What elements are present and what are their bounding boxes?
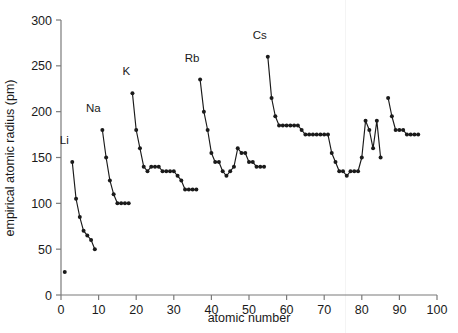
data-point (394, 128, 398, 132)
data-point (93, 247, 97, 251)
data-point (337, 169, 341, 173)
data-point (356, 169, 360, 173)
data-point (371, 146, 375, 150)
data-point (326, 133, 330, 137)
data-point (70, 160, 74, 164)
x-tick-label: 70 (317, 303, 331, 317)
data-point (292, 123, 296, 127)
data-point (100, 128, 104, 132)
atomic-radius-scatter-plot: 0102030405060708090100 05010015020025030… (0, 0, 458, 333)
data-point (202, 110, 206, 114)
data-point (255, 165, 259, 169)
data-point (142, 165, 146, 169)
x-tick-label: 0 (58, 303, 65, 317)
y-tick-label: 50 (38, 243, 52, 257)
data-point (89, 238, 93, 242)
data-point (138, 146, 142, 150)
data-point (172, 169, 176, 173)
data-point (127, 201, 131, 205)
data-point (386, 96, 390, 100)
data-point (405, 133, 409, 137)
data-point (239, 151, 243, 155)
y-axis-title: empirical atomic radius (pm) (3, 80, 17, 237)
data-point (288, 123, 292, 127)
data-point (345, 174, 349, 178)
data-point (251, 160, 255, 164)
series-period-5 (198, 78, 266, 178)
data-point (191, 188, 195, 192)
chart-figure: 0102030405060708090100 05010015020025030… (0, 0, 458, 333)
data-point (273, 114, 277, 118)
data-point (303, 133, 307, 137)
series-period-3 (100, 128, 130, 205)
series-period-7 (386, 96, 420, 137)
data-point (104, 156, 108, 160)
data-point (153, 165, 157, 169)
series-line (102, 130, 128, 203)
data-point (168, 169, 172, 173)
data-point (364, 119, 368, 123)
data-point (161, 169, 165, 173)
data-point (352, 169, 356, 173)
data-point (176, 174, 180, 178)
data-point (82, 229, 86, 233)
annotation-label-li: Li (60, 134, 69, 146)
data-point (409, 133, 413, 137)
x-tick-label: 30 (167, 303, 181, 317)
data-point (157, 165, 161, 169)
x-tick-label: 90 (392, 303, 406, 317)
data-point (311, 133, 315, 137)
data-point (228, 169, 232, 173)
data-point (74, 197, 78, 201)
data-point (277, 123, 281, 127)
data-point (401, 128, 405, 132)
data-point (183, 188, 187, 192)
data-point (194, 188, 198, 192)
data-point (149, 165, 153, 169)
data-point (296, 123, 300, 127)
data-point (281, 123, 285, 127)
data-point (247, 160, 251, 164)
data-point (315, 133, 319, 137)
data-point (397, 128, 401, 132)
annotation-label-k: K (123, 65, 131, 77)
data-point (198, 78, 202, 82)
data-point (390, 114, 394, 118)
data-point (108, 178, 112, 182)
y-tick-label: 0 (45, 289, 52, 303)
data-point (341, 169, 345, 173)
series-line (72, 162, 95, 249)
x-tick-label: 20 (129, 303, 143, 317)
series-period-2 (70, 160, 97, 251)
data-point (232, 165, 236, 169)
data-point (187, 188, 191, 192)
tick-marks (56, 20, 437, 300)
data-point (224, 174, 228, 178)
x-axis-title: atomic number (208, 311, 291, 325)
data-point (318, 133, 322, 137)
data-point (134, 128, 138, 132)
y-tick-label: 300 (31, 14, 52, 28)
data-point (130, 91, 134, 95)
series-hydrogen (63, 270, 67, 274)
data-point (349, 169, 353, 173)
annotation-label-cs: Cs (253, 29, 267, 41)
data-point (78, 215, 82, 219)
data-point (285, 123, 289, 127)
data-point (266, 55, 270, 59)
data-point (85, 233, 89, 237)
data-point (63, 270, 67, 274)
data-point (206, 128, 210, 132)
data-point (112, 192, 116, 196)
data-point (416, 133, 420, 137)
data-point (179, 178, 183, 182)
data-point (209, 151, 213, 155)
data-point (243, 151, 247, 155)
data-point (270, 96, 274, 100)
series-line (132, 93, 196, 189)
data-point (375, 119, 379, 123)
data-point (333, 160, 337, 164)
data-point (221, 169, 225, 173)
x-tick-label: 100 (427, 303, 448, 317)
series-annotations: LiNaKRbCs (60, 29, 267, 146)
